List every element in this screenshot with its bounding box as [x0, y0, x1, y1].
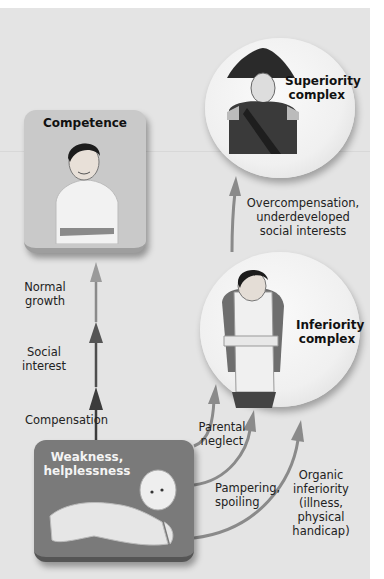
- superiority-label: Superiority complex: [285, 74, 345, 102]
- overcompensation-arrowhead: [229, 176, 241, 196]
- competence-node: Competence: [24, 110, 146, 253]
- huddled-boy-illustration: [214, 262, 294, 410]
- compensation-arrowhead: [89, 387, 103, 410]
- competence-label: Competence: [24, 116, 146, 130]
- normal-growth-arrowhead: [90, 262, 102, 282]
- inferiority-complex-node: Inferiority complex: [200, 252, 360, 407]
- social-interest-arrowhead: [89, 322, 103, 343]
- superiority-complex-node: Superiority complex: [205, 38, 355, 178]
- overcompensation-label: Overcompensation, underdeveloped social …: [244, 196, 362, 238]
- inferiority-label: Inferiority complex: [296, 318, 358, 346]
- weakness-helplessness-node: Weakness, helplessness: [34, 440, 194, 562]
- baby-illustration: [44, 460, 194, 552]
- organic-inferiority-label: Organic inferiority (illness, physical h…: [268, 468, 374, 538]
- normal-growth-label: Normal growth: [16, 280, 74, 308]
- parental-neglect-label: Parental neglect: [196, 420, 248, 448]
- compensation-label: Compensation: [25, 413, 108, 427]
- confident-man-illustration: [46, 132, 126, 244]
- social-interest-label: Social interest: [14, 345, 74, 373]
